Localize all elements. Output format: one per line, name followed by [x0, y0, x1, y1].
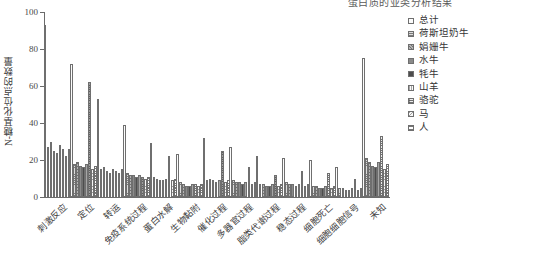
legend-item[interactable]: 荷斯坦奶牛	[408, 27, 533, 40]
legend-item[interactable]: 牦牛	[408, 68, 533, 81]
x-tick-label: 脂类代谢过程	[233, 201, 282, 247]
bar-group	[362, 12, 389, 197]
y-tick-label: 100	[25, 7, 39, 17]
legend-swatch-icon	[408, 111, 414, 117]
legend-item[interactable]: 马	[408, 108, 533, 121]
x-tick-label: 转运	[101, 201, 123, 223]
y-tick-label: 80	[29, 44, 38, 54]
bar-group	[309, 12, 336, 197]
x-tick-label: 细胞细胞信号	[313, 201, 362, 247]
legend-swatch-icon	[408, 18, 414, 24]
chart-legend: 总计荷斯坦奶牛娟姗牛水牛牦牛山羊骆驼马人	[408, 14, 533, 135]
legend-swatch-icon	[408, 98, 414, 104]
y-tick-label: 20	[29, 155, 38, 165]
legend-label: 荷斯坦奶牛	[419, 29, 469, 39]
legend-label: 水牛	[419, 56, 439, 66]
legend-item[interactable]: 总计	[408, 14, 533, 27]
x-tick-label: 稳态过程	[273, 201, 308, 235]
chart-title-clipped: 蛋白质的亚类分析结果	[300, 0, 500, 8]
bar-group	[176, 12, 203, 197]
legend-label: 骆驼	[419, 96, 439, 106]
legend-item[interactable]: 骆驼	[408, 94, 533, 107]
legend-item[interactable]: 人	[408, 121, 533, 134]
legend-label: 人	[419, 123, 429, 133]
x-tick-label: 多器官过程	[214, 201, 256, 241]
legend-label: 山羊	[419, 83, 439, 93]
y-tick-mark	[40, 197, 44, 198]
y-tick-label: 40	[29, 118, 38, 128]
y-tick-label: 60	[29, 81, 38, 91]
x-tick-label: 未知	[366, 201, 388, 223]
legend-item[interactable]: 山羊	[408, 81, 533, 94]
legend-label: 牦牛	[419, 70, 439, 80]
legend-swatch-icon	[408, 125, 414, 131]
x-tick-label: 定位	[74, 201, 96, 223]
bar-group	[256, 12, 283, 197]
bar-group	[335, 12, 362, 197]
x-tick-label: 细胞死亡	[300, 201, 335, 235]
bar-group	[203, 12, 230, 197]
x-tick-label: 生物黏附	[167, 201, 202, 235]
legend-item[interactable]: 娟姗牛	[408, 41, 533, 54]
bar-group	[97, 12, 124, 197]
legend-swatch-icon	[408, 58, 414, 64]
y-tick-label: 0	[34, 192, 39, 202]
legend-label: 马	[419, 110, 429, 120]
bar	[386, 164, 389, 197]
legend-swatch-icon	[408, 31, 414, 37]
legend-label: 总计	[419, 16, 439, 26]
legend-label: 娟姗牛	[419, 43, 449, 53]
bar-group	[44, 12, 71, 197]
bar-group	[70, 12, 97, 197]
legend-item[interactable]: 水牛	[408, 54, 533, 67]
x-tick-label: 蛋白水解	[141, 201, 176, 235]
legend-swatch-icon	[408, 44, 414, 50]
bar-group	[229, 12, 256, 197]
x-axis-line	[44, 197, 390, 198]
bar-group	[282, 12, 309, 197]
x-tick-label: 免疫系统过程	[101, 201, 150, 247]
legend-swatch-icon	[408, 85, 414, 91]
legend-swatch-icon	[408, 71, 414, 77]
x-tick-label: 催化过程	[194, 201, 229, 235]
x-tick-label: 刺激反应	[35, 201, 70, 235]
plot-area: 020406080100	[44, 12, 389, 197]
bar-group	[150, 12, 177, 197]
bar-chart: 蛋白质的亚类分析结果 N-糖基化位点的数量 020406080100 刺激反应定…	[0, 0, 537, 265]
bar-group	[123, 12, 150, 197]
y-axis-label: N-糖基化位点的数量	[2, 18, 16, 183]
